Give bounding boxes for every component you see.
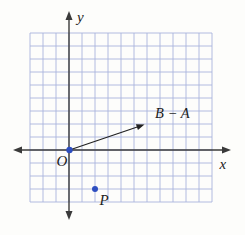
point-p-label: P <box>99 192 109 208</box>
y-axis-label: y <box>75 9 84 25</box>
x-axis-label: x <box>219 156 227 172</box>
point-p-dot <box>92 186 98 192</box>
figure-canvas: y x O B − A P <box>0 0 245 235</box>
vector-label: B − A <box>155 105 190 121</box>
origin-label: O <box>57 153 68 169</box>
figure-background <box>0 0 245 235</box>
coordinate-plane-figure: y x O B − A P <box>0 0 245 235</box>
